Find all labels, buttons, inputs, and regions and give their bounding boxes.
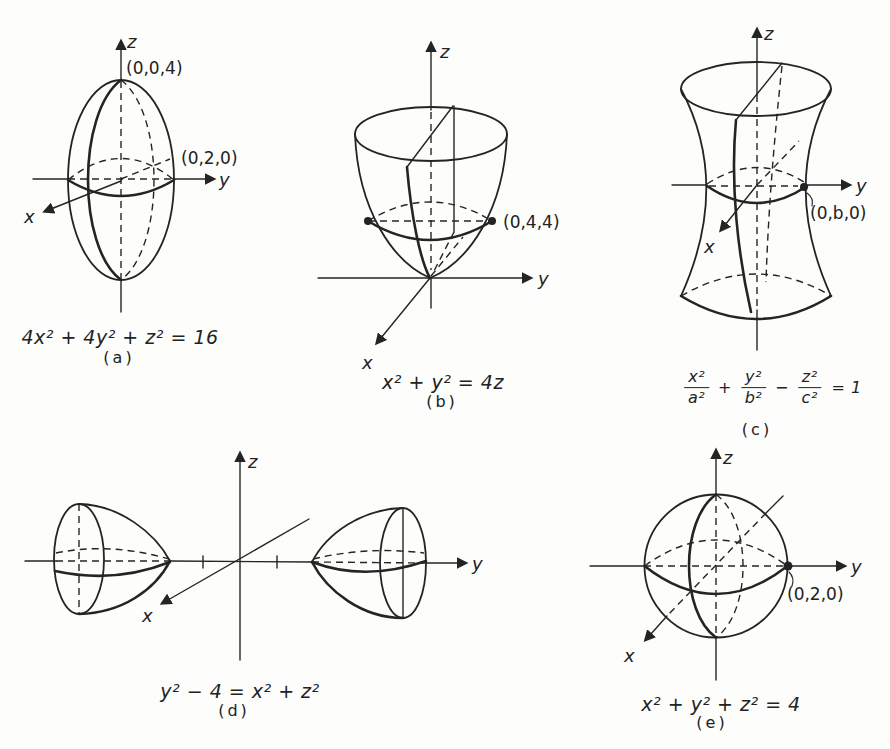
e-point-dot <box>784 562 793 571</box>
equation-c-f3-den: c² <box>802 389 818 408</box>
c-point-dot <box>800 183 808 191</box>
equation-c-fraction-1: x² a² <box>684 368 709 408</box>
d-y-axis-label: y <box>471 553 483 574</box>
b-y-axis-label: y <box>537 268 549 289</box>
equation-c-f3-num: z² <box>798 368 822 388</box>
equation-c-fraction-3: z² c² <box>798 368 822 408</box>
b-circle-z4-back <box>368 202 492 221</box>
b-circle-z4-front <box>368 221 492 240</box>
d-z-axis-label: z <box>247 451 258 472</box>
equation-c-op2: − <box>775 379 789 398</box>
equation-c-f2-num: y² <box>741 368 766 388</box>
b-x-axis-label: x <box>361 352 373 373</box>
figure-b-paraboloid: z y x (0,4,4) <box>318 41 560 373</box>
c-rim-top <box>681 62 831 116</box>
e-point-label-y: (0,2,0) <box>787 584 844 604</box>
d-x-axis-label: x <box>141 605 153 626</box>
d-x-axis-arrow <box>168 519 309 600</box>
b-slice-chord <box>407 106 453 167</box>
c-rim-bottom-back <box>681 274 831 296</box>
caption-d: (d) <box>218 701 250 720</box>
caption-c: (c) <box>742 420 772 439</box>
e-x-axis-label: x <box>623 645 635 666</box>
c-x-axis-arrow <box>725 185 757 225</box>
equation-c-rhs: = 1 <box>832 379 862 398</box>
figure-d-hyperboloid-two-sheets: z y x <box>25 451 483 660</box>
equation-b: x² + y² = 4z <box>382 371 504 393</box>
c-x-axis-label: x <box>703 236 715 257</box>
a-y-axis-label: y <box>218 169 230 190</box>
a-meridian-front <box>88 80 121 280</box>
equation-c-op1: + <box>718 379 732 398</box>
c-silhouette-left <box>681 89 707 296</box>
a-x-axis-label: x <box>23 206 35 227</box>
e-y-axis-label: y <box>850 556 862 577</box>
b-point-dot-right <box>488 217 496 225</box>
c-z-axis-label: z <box>763 23 774 44</box>
c-x-axis-hidden <box>757 141 799 185</box>
d-right-upper <box>312 508 403 562</box>
d-left-back-arc <box>56 549 169 559</box>
e-x-axis-upper <box>766 496 783 513</box>
a-point-label-top: (0,0,4) <box>126 58 183 78</box>
d-left-front-arc <box>55 562 170 576</box>
a-meridian-back <box>121 80 154 280</box>
quadric-surfaces-figure-page: z y x (0,0,4) (0,2,0) z y x <box>0 0 890 749</box>
d-right-back-arc <box>313 551 424 559</box>
c-meridian-front <box>734 120 751 312</box>
equation-c-f2-den: b² <box>745 389 763 408</box>
figure-a-ellipsoid: z y x (0,0,4) (0,2,0) <box>23 31 238 312</box>
equation-c-fraction-2: y² b² <box>741 368 766 408</box>
caption-a: (a) <box>103 348 134 367</box>
c-rim-bottom-front <box>681 296 831 319</box>
c-silhouette-right <box>806 89 832 296</box>
figure-e-sphere: z y x (0,2,0) <box>590 447 862 680</box>
d-y-axis-hidden-right <box>312 562 424 563</box>
c-y-axis-label: y <box>855 175 867 196</box>
equation-c: x² a² + y² b² − z² c² = 1 <box>680 368 862 408</box>
b-z-axis-label: z <box>439 41 450 62</box>
equation-c-f1-num: x² <box>684 368 709 388</box>
c-point-label-y: (0,b,0) <box>810 203 867 223</box>
a-z-axis-label: z <box>126 31 137 52</box>
caption-b: (b) <box>426 392 458 411</box>
equation-d: y² − 4 = x² + z² <box>160 680 319 702</box>
b-point-label-y: (0,4,4) <box>503 212 560 232</box>
b-x-axis-hidden <box>431 237 463 276</box>
d-y-axis-middle <box>170 561 312 562</box>
b-x-axis-arrow <box>381 278 430 338</box>
equation-a: 4x² + 4y² + z² = 16 <box>21 326 218 348</box>
b-side-left <box>355 134 430 278</box>
caption-e: (e) <box>696 713 727 732</box>
c-slice-chord <box>736 63 782 120</box>
e-x-axis-hidden <box>667 513 766 616</box>
b-point-dot-left <box>364 217 372 225</box>
b-parabola-front <box>407 167 430 278</box>
e-z-axis-label: z <box>722 447 733 468</box>
a-x-axis-hidden <box>121 159 170 179</box>
figure-c-hyperboloid-one-sheet: z y x (0,b,0) <box>672 23 867 350</box>
equation-c-f1-den: a² <box>688 389 705 408</box>
e-x-axis-arrow <box>650 616 667 635</box>
a-point-label-y: (0,2,0) <box>181 148 238 168</box>
